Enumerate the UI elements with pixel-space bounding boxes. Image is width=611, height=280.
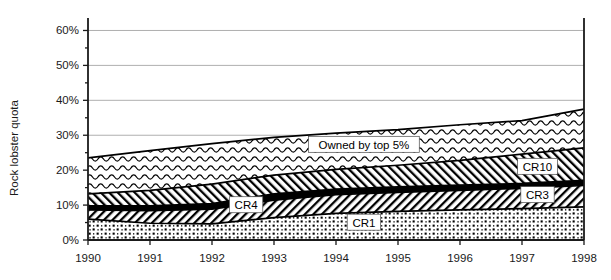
y-tick-label: 40% <box>56 94 79 106</box>
x-tick-label: 1992 <box>199 252 225 264</box>
series-label-cr4: CR4 <box>229 197 262 213</box>
label-text: CR10 <box>523 161 552 173</box>
series-label-cr1: CR1 <box>347 214 380 230</box>
series-label-owned-by-top-5: Owned by top 5% <box>309 136 420 152</box>
y-axis-title: Rock lobster quota <box>8 99 20 195</box>
y-tick-label: 0% <box>62 234 79 246</box>
label-text: CR4 <box>235 199 259 211</box>
x-tick-label: 1994 <box>323 252 349 264</box>
chart-container: 0%10%20%30%40%50%60%19901991199219931994… <box>0 0 611 280</box>
label-text: CR3 <box>526 189 549 201</box>
x-tick-label: 1997 <box>509 252 535 264</box>
x-tick-label: 1990 <box>75 252 101 264</box>
x-tick-label: 1996 <box>447 252 473 264</box>
y-tick-label: 10% <box>56 199 79 211</box>
area-chart: 0%10%20%30%40%50%60%19901991199219931994… <box>0 0 611 280</box>
x-tick-label: 1993 <box>261 252 287 264</box>
x-tick-label: 1991 <box>137 252 163 264</box>
stacked-bands <box>88 109 584 240</box>
x-tick-label: 1995 <box>385 252 411 264</box>
label-text: CR1 <box>352 217 375 229</box>
series-label-cr3: CR3 <box>521 187 554 203</box>
y-tick-label: 60% <box>56 24 79 36</box>
y-tick-label: 20% <box>56 164 79 176</box>
y-tick-label: 50% <box>56 59 79 71</box>
x-tick-label: 1998 <box>571 252 597 264</box>
y-tick-label: 30% <box>56 129 79 141</box>
series-label-cr10: CR10 <box>518 158 558 174</box>
label-text: Owned by top 5% <box>319 139 410 151</box>
